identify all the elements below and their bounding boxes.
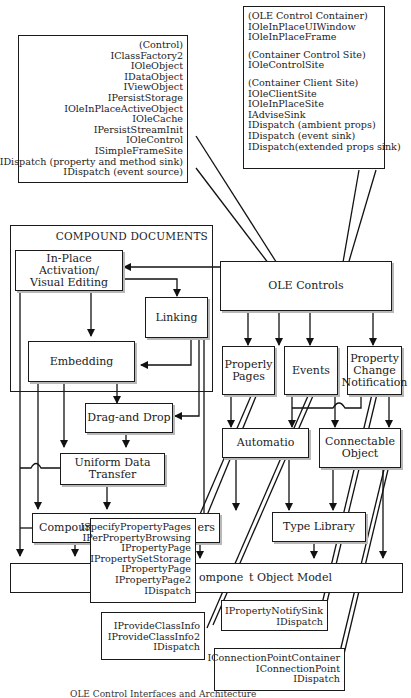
node-label: Properly [225,359,273,371]
interface-item: IPropertyPage2 [80,575,191,586]
interface-item: IProvideClassInfo [108,621,200,632]
interface-item: (Container Client Site) [248,78,401,89]
node-label: Pages [232,371,265,383]
node-component-object-model: ompone t Object Model [10,563,403,593]
container-interfaces-list: (OLE Control Container) IOleInPlaceUIWin… [248,11,401,152]
interface-item: IOleInPlaceFrame [248,32,401,43]
interface-item: IDispatch [225,617,323,628]
interface-item: (Control) [0,40,183,51]
node-label: Type Library [283,521,355,533]
control-interfaces-callout: (Control) IClassFactory2 IOleObject IDat… [18,35,188,183]
interface-item: IPersistStorage [0,93,183,104]
node-label: Events [292,365,330,377]
property-notify-interfaces-list: IPropertyNotifySink IDispatch [225,606,323,627]
compound-documents-label: COMPOUND DOCUMENTS [56,230,208,242]
interface-item: IDispatch (event source) [0,167,183,178]
node-label: OLE Controls [268,280,343,292]
node-ole-controls: OLE Controls [220,261,392,311]
interface-item: ISimpleFrameSite [0,146,183,157]
interface-item: IDispatch [207,674,340,685]
node-property-pages: Properly Pages [222,346,275,395]
property-notify-interfaces-callout: IPropertyNotifySink IDispatch [221,600,328,631]
node-drag-and-drop: Drag-and Drop [85,403,173,433]
events-interfaces-callout: IProvideClassInfo IProvideClassInfo2 IDi… [101,612,205,660]
node-label: Linking [155,312,197,324]
interface-item: IDispatch [108,642,200,653]
interface-item: IDispatch [80,586,191,597]
node-label: t Object Model [249,572,332,584]
node-automation: Automatio [222,428,309,458]
property-pages-interfaces-list: ISpecifyPropertyPages IPerPropertyBrowsi… [80,522,191,596]
connection-point-interfaces-list: IConnectionPointContainer IConnectionPoi… [207,653,340,685]
node-label: Notification [342,377,408,389]
node-label: Drag-and Drop [87,412,170,424]
control-interfaces-list: (Control) IClassFactory2 IOleObject IDat… [0,40,183,178]
node-linking: Linking [145,297,208,338]
node-inplace-activation: In-Place Activation/ Visual Editing [15,250,123,291]
connection-point-interfaces-callout: IConnectionPointContainer IConnectionPoi… [214,648,345,691]
figure-caption: OLE Control Interfaces and Architecture [70,689,256,698]
node-label: Embedding [50,356,114,368]
node-label: Property [350,353,399,365]
node-connectable-object: Connectable Object [319,428,401,468]
interface-item: ISpecifyPropertyPages [80,522,191,533]
node-label: Object [342,448,379,460]
node-label: Visual Editing [30,277,108,289]
node-label: Automatio [237,437,295,449]
node-label: Change [353,365,396,377]
node-embedding: Embedding [28,341,135,382]
interface-item: IConnectionPointContainer [207,653,340,664]
interface-item: IDispatch(extended props sink) [248,142,401,153]
node-label: In-Place Activation/ [16,253,122,277]
node-events: Events [284,346,338,395]
events-interfaces-list: IProvideClassInfo IProvideClassInfo2 IDi… [108,621,200,653]
container-interfaces-callout: (OLE Control Container) IOleInPlaceUIWin… [243,6,385,169]
node-label: ers [198,522,215,534]
node-type-library: Type Library [272,512,366,542]
interface-item: IPropertyNotifySink [225,606,323,617]
interface-item: (OLE Control Container) [248,11,401,22]
property-pages-interfaces-callout: ISpecifyPropertyPages IPerPropertyBrowsi… [90,518,196,603]
interface-item: IDispatch (event sink) [248,131,401,142]
node-label: ompone [199,572,243,584]
node-label: Uniform Data Transfer [61,457,164,481]
node-uniform-data-transfer: Uniform Data Transfer [60,453,165,485]
interface-item: IOleControlSite [248,60,401,71]
node-property-change-notification: Property Change Notification [347,346,402,395]
